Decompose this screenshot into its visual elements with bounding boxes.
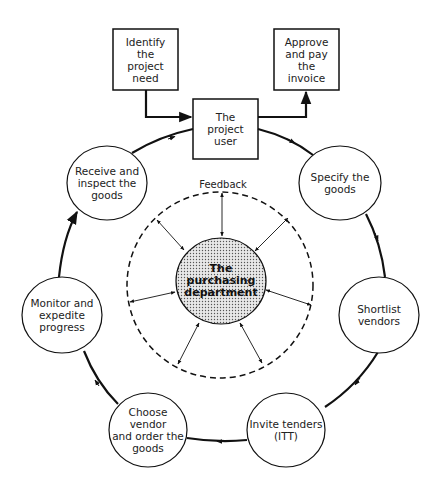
arrow-specify-to-shortlist xyxy=(366,214,385,277)
user-to-approve-connector xyxy=(258,92,306,117)
arrow-monitor-to-receive xyxy=(59,212,77,277)
receive-label: Receive and inspect the goods xyxy=(67,146,147,220)
choose-label: Choose vendor and order the goods xyxy=(109,393,187,467)
identify-need-label: Identify the project need xyxy=(113,29,178,90)
project-user-label: The project user xyxy=(193,99,258,159)
purchasing-department-label: The purchasing department xyxy=(176,238,266,324)
arrow-shortlist-to-invite xyxy=(325,352,378,407)
monitor-label: Monitor and expedite progress xyxy=(22,277,102,353)
specify-label: Specify the goods xyxy=(299,146,381,220)
approve-invoice-label: Approve and pay the invoice xyxy=(274,29,339,90)
invite-label: Invite tenders (ITT) xyxy=(247,393,325,467)
feedback-label: Feedback xyxy=(190,178,256,191)
arrow-invite-to-choose xyxy=(187,438,247,441)
shortlist-label: Shortlist vendors xyxy=(339,277,419,353)
identify-to-user-connector xyxy=(146,90,191,117)
